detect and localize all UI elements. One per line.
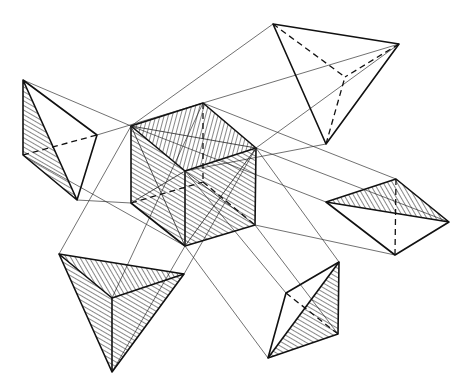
right-tetrahedron [326,179,449,255]
bottom-right-tetrahedron [268,262,339,358]
top-tetrahedron [273,24,399,144]
geometry-diagram [0,0,471,388]
bottom-left-tetrahedron [59,254,184,372]
central-cube [131,103,256,246]
left-tetrahedron [23,80,97,200]
